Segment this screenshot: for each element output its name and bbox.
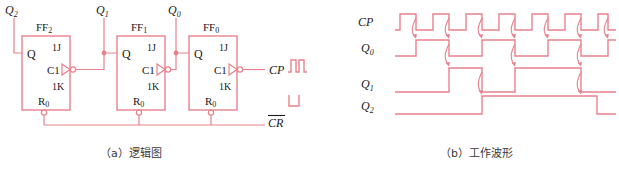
trigger-arrows-q0-to-q1: [445, 44, 582, 66]
caption-panel-b: （b）工作波形: [440, 144, 513, 160]
ff1-reset-bubble-icon: [136, 110, 141, 115]
flipflop-ff2: FF2 Q 1J C1 1K R0: [14, 18, 76, 125]
waveform-label-q1: Q1: [361, 77, 374, 93]
ff1-reset-label: R0: [133, 95, 144, 109]
ff1-q-to-ff2-clock-wire: [76, 53, 104, 70]
figure-root: FF2 Q 1J C1 1K R0: [0, 0, 619, 178]
ff0-title: FF0: [203, 21, 219, 35]
ff0-reset-label: R0: [205, 95, 216, 109]
ff0-q-junction-dot: [174, 51, 179, 56]
trigger-arrows-q1-to-q2: [478, 72, 582, 94]
ff0-reset-bubble-icon: [208, 110, 213, 115]
ff2-k-label: 1K: [52, 81, 65, 92]
ff0-q-label: Q: [194, 47, 203, 61]
logic-diagram-panel: FF2 Q 1J C1 1K R0: [0, 0, 330, 140]
waveform-label-q2: Q2: [361, 99, 374, 115]
output-label-q0: Q0: [168, 3, 181, 19]
waveform-label-q0: Q0: [361, 41, 374, 57]
caption-panel-a: （a）逻辑图: [100, 144, 162, 160]
output-label-q1: Q1: [96, 3, 109, 19]
ff2-clk-label: C1: [47, 64, 60, 76]
flipflop-ff1: FF1 Q 1J C1 1K R0: [76, 18, 171, 125]
ff1-title: FF1: [131, 21, 147, 35]
cp-input-label: CP: [269, 63, 285, 77]
waveform-trace-q2: [395, 96, 616, 114]
waveform-trace-q0: [395, 40, 616, 56]
ff2-dynamic-input-triangle-icon: [62, 64, 70, 75]
ff2-reset-bubble-icon: [41, 110, 46, 115]
ff1-clk-label: C1: [142, 64, 155, 76]
ff2-title: FF2: [36, 21, 52, 35]
ff2-q-output-wire: [14, 18, 22, 53]
ff2-j-label: 1J: [52, 42, 61, 53]
ff0-j-label: 1J: [219, 42, 228, 53]
ff2-clock-invert-bubble-icon: [70, 67, 75, 72]
ff0-dynamic-input-triangle-icon: [229, 64, 237, 75]
ff0-clock-invert-bubble-icon: [237, 67, 242, 72]
clock-pulse-train-icon: [288, 60, 307, 72]
ff1-dynamic-input-triangle-icon: [157, 64, 165, 75]
ff0-q-to-ff1-clock-wire: [171, 53, 176, 70]
ff1-k-label: 1K: [147, 81, 160, 92]
ff1-j-label: 1J: [147, 42, 156, 53]
ff1-q-junction-dot: [102, 51, 107, 56]
ff2-reset-label: R0: [38, 95, 49, 109]
ff0-clk-label: C1: [214, 64, 227, 76]
waveform-label-cp: CP: [358, 15, 374, 29]
waveform-panel: CP Q0 Q1 Q2: [340, 0, 619, 140]
ff0-k-label: 1K: [219, 81, 232, 92]
ff1-clock-invert-bubble-icon: [165, 67, 170, 72]
output-label-q2: Q2: [5, 3, 18, 19]
trigger-arrows-cp-to-q0: [412, 18, 609, 38]
waveform-trace-q1: [395, 68, 616, 92]
cr-input-label: CR: [268, 116, 284, 130]
ff1-q-output-wire: [104, 18, 117, 53]
ff2-q-label: Q: [27, 47, 36, 61]
waveform-trace-cp: [395, 14, 616, 30]
active-low-pulse-icon: [289, 95, 299, 106]
ff1-q-label: Q: [122, 47, 131, 61]
ff0-q-output-wire: [176, 18, 189, 53]
flipflop-ff0: FF0 Q 1J C1 1K R0: [171, 18, 243, 125]
